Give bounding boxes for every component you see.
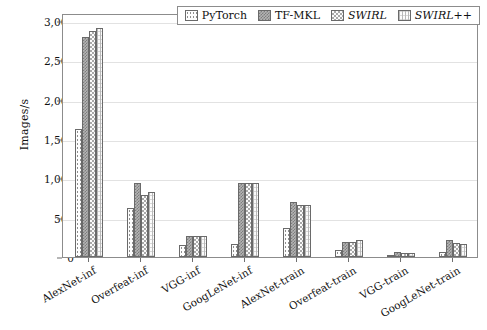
bar-swirlpp-overfeat-train (356, 240, 363, 257)
x-axis-tick-mark (296, 258, 297, 262)
legend-entry-tf-mkl[interactable]: TF-MKL (258, 10, 320, 21)
bar-pytorch-alexnet-inf (75, 129, 82, 257)
bar-tf-mkl-vgg-train (394, 252, 401, 257)
bar-tf-mkl-googlenet-inf (238, 183, 245, 257)
bar-swirl-overfeat-inf (141, 195, 148, 257)
x-axis-tick-mark (244, 258, 245, 262)
grid-line (63, 62, 477, 63)
x-axis-tick-mark (88, 258, 89, 262)
legend-label: SWIRL++ (415, 10, 472, 21)
bar-pytorch-vgg-train (387, 255, 394, 257)
bar-tf-mkl-overfeat-train (342, 242, 349, 257)
legend-swatch-icon (398, 10, 411, 21)
legend-entry-swirlpp[interactable]: SWIRL++ (398, 10, 472, 21)
y-axis-title: Images/s (18, 65, 31, 185)
bar-swirl-googlenet-train (453, 243, 460, 257)
bar-swirl-vgg-train (401, 253, 408, 257)
x-axis-tick-mark (400, 258, 401, 262)
bar-swirlpp-alexnet-inf (96, 28, 103, 257)
grid-line (63, 141, 477, 142)
grid-line (63, 102, 477, 103)
legend-swatch-icon (331, 10, 344, 21)
legend-swatch-icon (258, 10, 271, 21)
bar-swirl-alexnet-train (297, 205, 304, 257)
bar-pytorch-overfeat-inf (127, 208, 134, 257)
x-axis-tick-mark (140, 258, 141, 262)
bar-swirlpp-vgg-inf (200, 236, 207, 257)
bar-tf-mkl-googlenet-train (446, 240, 453, 257)
legend-entry-pytorch[interactable]: PyTorch (185, 10, 247, 21)
legend-entry-swirl[interactable]: SWIRL (331, 10, 387, 21)
legend-swatch-icon (185, 10, 198, 21)
x-axis-tick-label: VGG-inf (160, 264, 202, 295)
bar-swirlpp-googlenet-inf (252, 183, 259, 257)
bar-tf-mkl-vgg-inf (186, 236, 193, 257)
legend-label: TF-MKL (275, 10, 320, 21)
legend-label: PyTorch (202, 10, 247, 21)
bar-tf-mkl-overfeat-inf (134, 183, 141, 257)
x-axis-tick-mark (452, 258, 453, 262)
bar-pytorch-alexnet-train (283, 228, 290, 257)
bar-swirlpp-googlenet-train (460, 244, 467, 257)
plot-area (62, 14, 478, 258)
bar-pytorch-vgg-inf (179, 245, 186, 257)
grid-line (63, 220, 477, 221)
x-axis-tick-label: Overfeat-inf (89, 264, 150, 306)
bar-tf-mkl-alexnet-inf (82, 37, 89, 257)
bar-swirlpp-overfeat-inf (148, 192, 155, 257)
bar-swirl-googlenet-inf (245, 183, 252, 257)
bar-pytorch-googlenet-train (439, 252, 446, 257)
legend-label: SWIRL (348, 10, 387, 21)
bar-swirl-overfeat-train (349, 242, 356, 257)
chart-legend: PyTorchTF-MKLSWIRLSWIRL++ (177, 6, 480, 25)
x-axis-tick-mark (348, 258, 349, 262)
bar-tf-mkl-alexnet-train (290, 202, 297, 257)
grid-line (63, 180, 477, 181)
bar-chart-figure: Images/s 05001,0001,5002,0002,5003,000 P… (0, 0, 487, 330)
bar-swirlpp-vgg-train (408, 253, 415, 257)
bar-swirl-alexnet-inf (89, 31, 96, 257)
bar-pytorch-overfeat-train (335, 250, 342, 257)
bar-swirlpp-alexnet-train (304, 205, 311, 257)
bar-pytorch-googlenet-inf (231, 244, 238, 257)
bar-swirl-vgg-inf (193, 236, 200, 257)
x-axis-tick-mark (192, 258, 193, 262)
